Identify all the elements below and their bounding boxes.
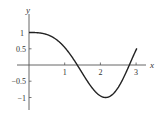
x-tick-label-1: 1: [63, 68, 67, 77]
y-tick-label-0.5: 0.5: [16, 45, 26, 54]
x-axis-label: x: [149, 60, 154, 70]
y-tick-label-1: 1: [20, 29, 24, 38]
function-plot: x y 1 2 3 1 0.5 −0.5 −1: [0, 0, 160, 117]
y-axis-label: y: [25, 5, 30, 15]
x-tick-label-2: 2: [98, 68, 102, 77]
y-tick-label-neg0.5: −0.5: [11, 77, 26, 86]
x-tick-label-3: 3: [134, 68, 138, 77]
y-tick-label-neg1: −1: [17, 94, 26, 103]
